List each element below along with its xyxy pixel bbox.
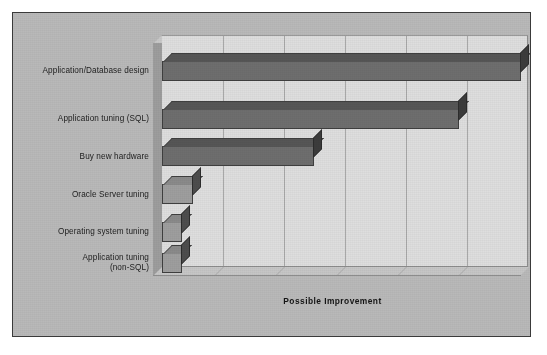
category-axis-slab — [153, 43, 162, 275]
bar-application-database-design[interactable] — [162, 61, 521, 81]
category-label-buy-new-hardware: Buy new hardware — [80, 152, 149, 162]
scanned-page: Application/Database design Application … — [0, 0, 547, 355]
bar-top-face — [163, 101, 469, 110]
chart-figure: Application/Database design Application … — [12, 12, 531, 337]
category-label-oracle-server-tuning: Oracle Server tuning — [72, 190, 149, 200]
bar-top-face — [163, 53, 531, 62]
bar-oracle-server-tuning[interactable] — [162, 184, 193, 204]
category-label-operating-system-tuning: Operating system tuning — [58, 227, 149, 237]
value-axis-line — [153, 275, 521, 276]
bar-buy-new-hardware[interactable] — [162, 146, 314, 166]
category-label-application-tuning-non-sql: Application tuning (non-SQL) — [83, 253, 149, 273]
category-label-application-database-design: Application/Database design — [43, 66, 149, 76]
category-axis-labels: Application/Database design Application … — [21, 13, 149, 337]
value-axis-title: Possible Improvement — [13, 296, 531, 306]
category-label-application-tuning-sql: Application tuning (SQL) — [58, 114, 149, 124]
bar-application-tuning-non-sql[interactable] — [162, 253, 182, 273]
bar-operating-system-tuning[interactable] — [162, 222, 182, 242]
bar-top-face — [163, 138, 324, 147]
bar-application-tuning-sql[interactable] — [162, 109, 459, 129]
